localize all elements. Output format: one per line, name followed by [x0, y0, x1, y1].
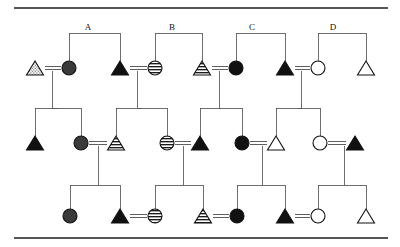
pedigree-canvas [0, 0, 400, 247]
individual-II-4-female-striped [160, 136, 174, 150]
individual-III-8-male-open [358, 209, 375, 223]
sibship-label-b: B [169, 23, 175, 32]
individual-II-6-female-black [235, 136, 249, 150]
individual-I-2-female-dark-gray [62, 61, 76, 75]
individual-III-4-male-striped [195, 209, 212, 223]
individual-II-5-male-black [192, 136, 209, 150]
individual-II-2-female-dark-gray [74, 136, 88, 150]
individual-III-2-male-black [112, 209, 129, 223]
individual-III-5-female-black [230, 209, 244, 223]
pedigree-figure: ABCD [0, 0, 400, 247]
individual-I-4-female-striped [148, 61, 162, 75]
individual-I-6-female-black [229, 61, 243, 75]
individual-II-7-male-open [268, 136, 285, 150]
individual-I-1-male-stippled [27, 61, 44, 75]
symbols-layer [27, 61, 375, 223]
sibship-label-c: C [249, 23, 255, 32]
individual-III-6-male-black [277, 209, 294, 223]
individual-II-1-male-black [27, 136, 44, 150]
individual-III-7-female-open [311, 209, 325, 223]
sibship-label-a: A [85, 23, 92, 32]
individual-I-7-male-black [277, 61, 294, 75]
sibship-label-d: D [330, 23, 337, 32]
individual-III-3-female-striped [148, 209, 162, 223]
individual-I-5-male-striped [194, 61, 211, 75]
individual-II-8-female-open [313, 136, 327, 150]
individual-I-3-male-black [112, 61, 129, 75]
individual-II-9-male-black [347, 136, 364, 150]
individual-II-3-male-striped [108, 136, 125, 150]
individual-I-9-male-open [358, 61, 375, 75]
individual-III-1-female-dark-gray [63, 209, 77, 223]
individual-I-8-female-open [311, 61, 325, 75]
